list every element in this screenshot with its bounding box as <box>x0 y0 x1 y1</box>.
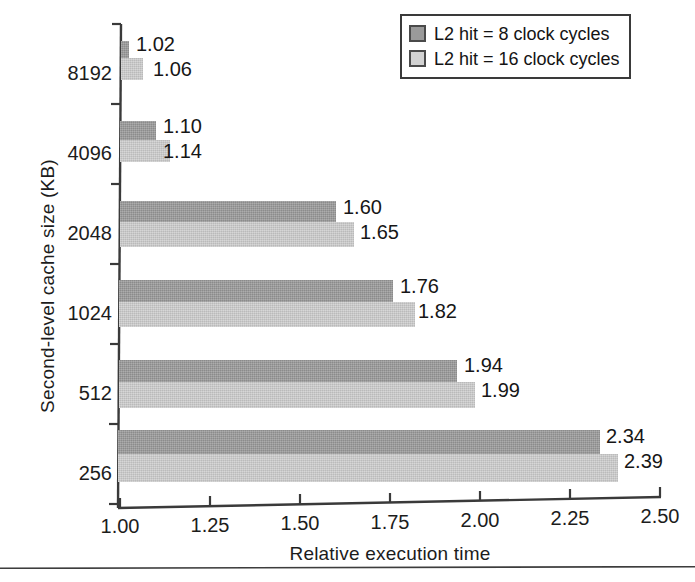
x-tick-label: 2.50 <box>615 505 695 528</box>
legend-label: L2 hit = 8 clock cycles <box>434 25 610 43</box>
legend-swatch-icon <box>409 25 426 42</box>
bar-chart-figure: Second-level cache size (KB) 8192 4096 2… <box>0 0 695 582</box>
x-axis-title: Relative execution time <box>120 543 660 565</box>
x-tick-labels: 1.00 1.25 1.50 1.75 2.00 2.25 2.50 <box>0 0 695 582</box>
page-divider-rule <box>0 566 695 569</box>
legend-label: L2 hit = 16 clock cycles <box>434 50 620 68</box>
x-tick-label: 1.25 <box>165 514 255 537</box>
legend-swatch-icon <box>409 50 426 67</box>
x-tick-label: 2.00 <box>435 509 525 532</box>
x-tick-label: 1.50 <box>255 512 345 535</box>
x-tick-label: 1.00 <box>75 515 165 538</box>
legend-item-l2hit8: L2 hit = 8 clock cycles <box>409 21 620 46</box>
x-tick-label: 2.25 <box>525 507 615 530</box>
legend-item-l2hit16: L2 hit = 16 clock cycles <box>409 46 620 71</box>
chart-legend: L2 hit = 8 clock cycles L2 hit = 16 cloc… <box>400 14 631 79</box>
x-tick-label: 1.75 <box>345 511 435 534</box>
